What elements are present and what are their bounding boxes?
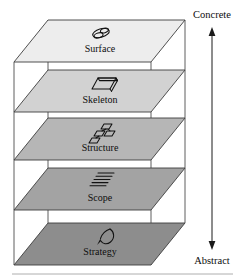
concrete-abstract-axis: Concrete Abstract <box>193 9 231 266</box>
plane-structure-label: Structure <box>82 142 119 153</box>
planes-diagram: Surface Skeleton <box>0 0 245 278</box>
plane-strategy-label: Strategy <box>83 246 116 257</box>
plane-strategy-face <box>14 223 185 265</box>
plane-surface-label: Surface <box>85 43 116 54</box>
diagram-canvas: Surface Skeleton <box>0 0 245 278</box>
axis-bottom-label: Abstract <box>194 255 230 266</box>
plane-structure[interactable]: Structure <box>14 118 185 160</box>
axis-arrow-down-icon <box>209 241 216 250</box>
plane-strategy[interactable]: Strategy <box>14 223 185 265</box>
plane-skeleton[interactable]: Skeleton <box>14 70 185 112</box>
plane-skeleton-face <box>14 70 185 112</box>
plane-scope[interactable]: Scope <box>14 168 185 210</box>
plane-surface-face <box>14 20 185 62</box>
axis-top-label: Concrete <box>193 9 231 20</box>
axis-arrow-up-icon <box>209 27 216 36</box>
plane-skeleton-label: Skeleton <box>83 94 118 105</box>
plane-scope-face <box>14 168 185 210</box>
plane-surface[interactable]: Surface <box>14 20 185 62</box>
plane-scope-label: Scope <box>88 192 113 203</box>
